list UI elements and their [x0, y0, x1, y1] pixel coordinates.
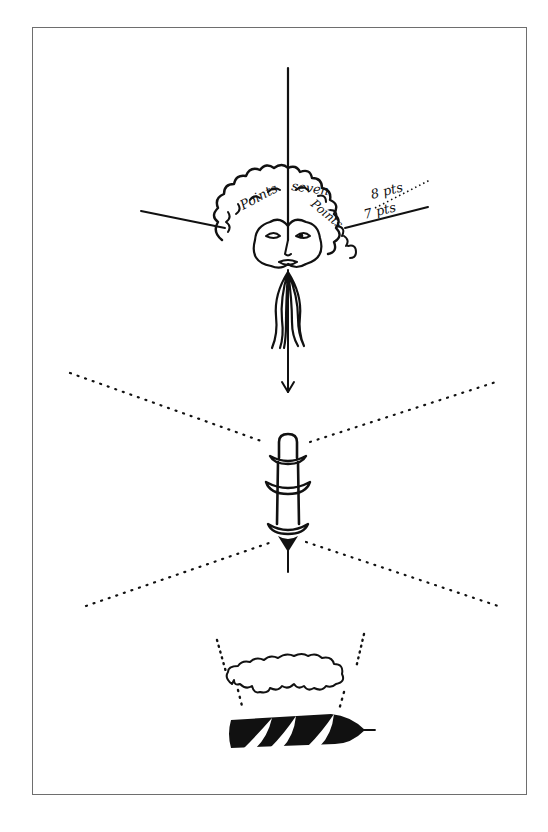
illustration: Points seven Points 8 pts 7 pts — [0, 0, 548, 832]
dotted-line-upper-right — [310, 382, 496, 442]
dotted-line-lower-left — [86, 542, 272, 606]
spindle-collar-2 — [266, 482, 310, 494]
spindle-collar-1 — [270, 456, 306, 464]
hair-text-points-left: Points — [236, 180, 280, 213]
marker-8pts: 8 pts — [369, 179, 405, 202]
dotted-line-inner-left — [238, 690, 243, 710]
spindle-collar-3 — [268, 524, 308, 534]
dotted-line-left — [217, 640, 226, 672]
spindle-body — [277, 434, 299, 524]
dotted-line-right — [356, 634, 364, 668]
top-figure: Points seven Points 8 pts 7 pts — [141, 68, 430, 392]
dotted-line-lower-right — [306, 542, 498, 606]
hair-text-seven: seven — [291, 178, 331, 198]
eye-pupil — [299, 234, 304, 239]
bottom-figure — [217, 634, 375, 748]
dotted-line-upper-left — [70, 373, 264, 442]
left-axis-line — [141, 211, 225, 228]
face-nose-mouth — [279, 240, 297, 265]
dotted-line-inner-right — [339, 692, 344, 710]
middle-figure — [70, 373, 498, 606]
cloud-shape — [227, 654, 343, 693]
